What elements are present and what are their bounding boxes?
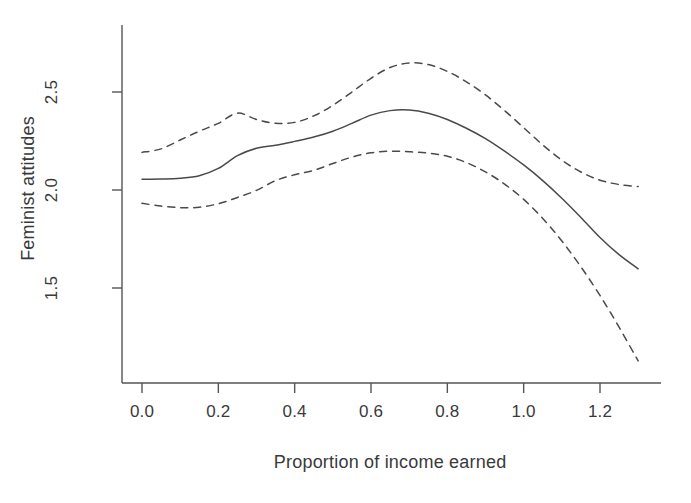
x-tick-label: 0.0 (130, 402, 154, 422)
x-tick-label: 0.4 (283, 402, 307, 422)
x-tick-label: 1.0 (512, 402, 536, 422)
data-series-group (142, 63, 638, 361)
x-axis-ticks (142, 383, 600, 393)
x-axis-label: Proportion of income earned (274, 452, 507, 473)
series-line-2 (142, 151, 638, 361)
y-tick-label: 2.0 (42, 138, 62, 242)
series-line-0 (142, 110, 638, 269)
x-tick-label: 0.2 (206, 402, 230, 422)
chart-figure: 0.00.20.40.60.81.01.2 1.52.02.5 Proporti… (0, 0, 691, 503)
x-tick-label: 1.2 (588, 402, 612, 422)
x-tick-label: 0.6 (359, 402, 383, 422)
axis-group (112, 25, 661, 393)
y-axis-label: Feminist attitudes (18, 99, 39, 279)
y-tick-label: 2.5 (42, 40, 62, 144)
y-tick-label: 1.5 (42, 236, 62, 340)
y-axis-ticks (112, 92, 122, 288)
x-tick-label: 0.8 (435, 402, 459, 422)
series-line-1 (142, 63, 638, 187)
plot-area (0, 0, 691, 503)
